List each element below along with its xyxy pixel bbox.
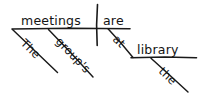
- diagram-canvas: meetings are The group's at library the: [0, 0, 199, 99]
- word-modifier-the-object: the: [156, 64, 180, 88]
- subject-verb-divider: [97, 5, 98, 46]
- word-verb: are: [103, 13, 124, 28]
- word-modifier-groups: group's: [53, 34, 94, 75]
- preposition-object-line: [131, 57, 197, 58]
- word-modifier-the-subject: The: [17, 35, 43, 61]
- word-subject: meetings: [21, 13, 81, 28]
- sentence-diagram: meetings are The group's at library the: [0, 0, 199, 99]
- main-baseline: [12, 28, 130, 29]
- word-preposition-object: library: [137, 42, 179, 57]
